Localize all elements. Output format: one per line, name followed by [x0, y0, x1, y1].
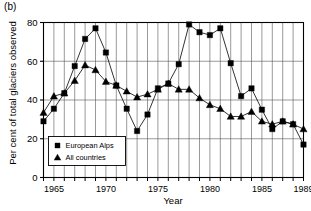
data-point-marker	[249, 86, 254, 91]
data-point-marker	[218, 26, 223, 31]
data-point-marker	[176, 61, 181, 66]
data-point-marker	[93, 26, 98, 31]
data-point-marker	[123, 88, 130, 94]
y-tick-label: 20	[27, 133, 38, 144]
series-markers	[40, 22, 307, 148]
series-line-all-countries	[44, 65, 304, 129]
data-point-marker	[134, 128, 139, 133]
data-point-marker	[300, 125, 307, 131]
y-tick-label: 40	[27, 94, 38, 105]
data-point-marker	[197, 29, 202, 34]
figure-panel-b: (b) Per cent of total glaciers observed …	[0, 0, 311, 211]
legend-label: European Alps	[66, 141, 114, 150]
y-tick-label: 80	[27, 17, 38, 28]
series-line-european-alps	[44, 24, 304, 144]
legend-marker-square	[55, 143, 60, 148]
y-tick-label: 0	[32, 172, 37, 183]
x-tick-label: 1975	[148, 184, 168, 194]
data-point-marker	[196, 94, 203, 100]
data-point-marker	[40, 109, 47, 115]
data-point-marker	[259, 107, 264, 112]
data-point-marker	[217, 105, 224, 111]
data-point-marker	[145, 112, 150, 117]
x-tick-label: 1970	[96, 184, 116, 194]
x-tick-label: 1980	[200, 184, 220, 194]
data-point-marker	[92, 66, 99, 72]
data-point-marker	[82, 36, 87, 41]
data-point-marker	[41, 119, 46, 124]
data-point-marker	[228, 60, 233, 65]
data-point-marker	[206, 101, 213, 107]
data-point-marker	[51, 106, 56, 111]
data-point-marker	[207, 32, 212, 37]
legend: European AlpsAll countries	[49, 137, 126, 166]
x-axis-tick-labels: 196519701975198019851989	[44, 184, 311, 194]
data-point-marker	[144, 91, 151, 97]
data-point-marker	[238, 93, 243, 98]
line-chart: 020406080 196519701975198019851989 Europ…	[0, 0, 311, 211]
horizontal-gridlines	[44, 61, 304, 139]
y-tick-label: 60	[27, 56, 38, 67]
data-point-marker	[103, 50, 108, 55]
data-point-marker	[124, 106, 129, 111]
data-point-marker	[248, 108, 255, 114]
data-point-marker	[186, 22, 191, 27]
data-point-marker	[71, 77, 78, 83]
x-tick-label: 1985	[252, 184, 272, 194]
data-point-marker	[82, 62, 89, 68]
x-tick-label: 1989	[293, 184, 311, 194]
data-point-marker	[301, 142, 306, 147]
series-lines	[44, 24, 304, 144]
x-tick-label: 1965	[44, 184, 64, 194]
data-point-marker	[72, 63, 77, 68]
y-axis-tick-labels: 020406080	[27, 17, 38, 183]
legend-label: All countries	[66, 153, 107, 162]
